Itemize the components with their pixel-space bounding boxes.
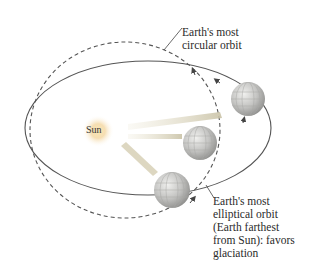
- elliptical-orbit-label: Earth's most elliptical orbit (Earth far…: [213, 195, 295, 260]
- globe-icon: [154, 172, 190, 208]
- circular-orbit-label: Earth's most circular orbit: [182, 26, 242, 52]
- sun-label: Sun: [86, 124, 102, 135]
- orbit-diagram: Sun Earth's most circular orbit Earth's …: [0, 0, 310, 277]
- globe-icon: [183, 126, 217, 160]
- globe-icon: [231, 82, 265, 116]
- elliptical-orbit: [25, 61, 271, 195]
- circular-orbit-leader: [164, 28, 182, 50]
